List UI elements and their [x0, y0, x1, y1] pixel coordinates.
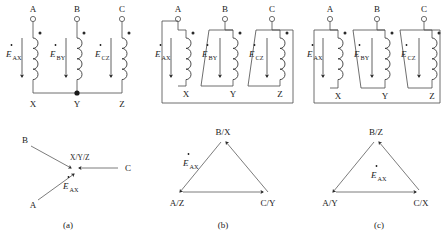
terminal-circle-a[interactable] — [30, 16, 35, 21]
terminal-circle-b2[interactable] — [222, 16, 227, 21]
polarity-dot-b3 — [391, 32, 394, 35]
svg-text:BY: BY — [209, 54, 218, 61]
winding-end-label-z2: Z — [277, 89, 283, 99]
winding-end-label-y3: Y — [382, 91, 389, 101]
emf-label-ax3: E AX — [306, 44, 323, 60]
terminal-circle-b[interactable] — [74, 16, 79, 21]
svg-text:E: E — [154, 49, 161, 59]
junction-dot-neutral — [74, 90, 79, 95]
emf-label-by: E BY — [49, 44, 66, 60]
polarity-dot-b — [83, 32, 86, 35]
winding-end-label-x1: X — [30, 99, 37, 109]
winding-end-label-y1: Y — [74, 99, 81, 109]
bottom-stub-a3 — [330, 80, 338, 88]
winding-coil-b2 — [233, 38, 238, 80]
polarity-dot-b2 — [239, 32, 242, 35]
winding-end-label-x2: X — [183, 89, 190, 99]
svg-text:AX: AX — [13, 54, 22, 61]
caption-a: (a) — [63, 220, 73, 230]
winding-end-label-z1: Z — [119, 99, 125, 109]
emf-label-ax2: E AX — [154, 44, 171, 60]
terminal-label-b3: B — [374, 4, 380, 14]
polarity-dot-c — [128, 32, 131, 35]
polarity-dot-a2 — [192, 32, 195, 35]
phasor-vertex-bz: B/Z — [369, 127, 383, 137]
phasor-emf-label-b: E AX — [182, 153, 199, 169]
svg-text:E: E — [62, 181, 69, 191]
polarity-dot-a3 — [344, 32, 347, 35]
svg-text:BY: BY — [57, 54, 66, 61]
terminal-circle-c2[interactable] — [269, 16, 274, 21]
bottom-stub-c3 — [424, 80, 432, 88]
top-connect-a2 — [178, 22, 186, 38]
phasor-vertex-az: A/Z — [170, 198, 185, 208]
winding-coil-b3 — [385, 38, 390, 80]
polarity-dot-c2 — [286, 32, 289, 35]
winding-coil-b — [77, 38, 82, 80]
terminal-label-b2: B — [222, 4, 228, 14]
emf-label-ax: E AX — [5, 44, 22, 60]
phasor-side-b-to-a-c — [333, 142, 374, 192]
svg-text:AX: AX — [162, 54, 171, 61]
terminal-circle-c[interactable] — [119, 16, 124, 21]
svg-text:AX: AX — [314, 54, 323, 61]
subfigure-a: A B C E AX E BY E CZ X Y Z B — [0, 0, 150, 234]
phasor-center-label: X/Y/Z — [70, 153, 90, 162]
phasor-vertex-cx: C/X — [413, 198, 429, 208]
winding-end-label-x3: X — [335, 91, 342, 101]
phasor-side-c-to-b-c — [379, 142, 419, 190]
terminal-label-c3: C — [421, 4, 427, 14]
phasor-vertex-c: C — [125, 163, 131, 173]
outer-return-rail-b — [162, 21, 293, 103]
winding-end-label-y2: Y — [230, 89, 237, 99]
svg-text:E: E — [400, 49, 407, 59]
phasor-emf-label-c: E AX — [370, 165, 387, 181]
phasor-vertex-cy: C/Y — [260, 198, 276, 208]
phasor-arm-b — [31, 146, 71, 168]
svg-text:AX: AX — [378, 175, 387, 182]
terminal-label-a1: A — [30, 4, 37, 14]
phasor-vertex-bx: B/X — [215, 127, 231, 137]
bottom-stub-a2 — [178, 80, 186, 86]
phasor-emf-label-a: E AX — [62, 176, 79, 192]
svg-text:BY: BY — [361, 54, 370, 61]
winding-end-label-z3: Z — [429, 91, 435, 101]
terminal-circle-b3[interactable] — [374, 16, 379, 21]
terminal-label-a3: A — [327, 4, 334, 14]
emf-label-by2: E BY — [201, 44, 218, 60]
svg-text:E: E — [370, 170, 377, 180]
caption-c: (c) — [374, 220, 384, 230]
phasor-vertex-b: B — [22, 135, 28, 145]
phasor-side-c-to-b — [226, 142, 268, 192]
emf-label-cz2: E CZ — [248, 44, 264, 60]
terminal-circle-c3[interactable] — [421, 16, 426, 21]
svg-text:CZ: CZ — [408, 54, 416, 61]
svg-text:E: E — [353, 49, 360, 59]
subfigure-c: A B C E AX E BY E CZ X Y Z — [297, 0, 444, 234]
svg-text:E: E — [94, 49, 101, 59]
phasor-vertex-a: A — [30, 200, 37, 210]
svg-text:E: E — [182, 158, 189, 168]
winding-coil-a3 — [338, 38, 343, 80]
winding-coil-c2 — [280, 38, 285, 80]
svg-text:E: E — [5, 49, 12, 59]
terminal-label-c1: C — [119, 4, 125, 14]
outer-return-rail-c — [314, 30, 440, 103]
bottom-stub-b2 — [225, 80, 233, 86]
terminal-label-a2: A — [175, 4, 182, 14]
svg-text:E: E — [201, 49, 208, 59]
terminal-circle-a3[interactable] — [327, 16, 332, 21]
emf-label-cz: E CZ — [94, 44, 110, 60]
svg-text:AX: AX — [190, 163, 199, 170]
svg-text:CZ: CZ — [256, 54, 264, 61]
subfigure-b: A B C E AX E BY E CZ X Y Z — [150, 0, 297, 234]
svg-text:CZ: CZ — [102, 54, 110, 61]
caption-b: (b) — [218, 220, 229, 230]
winding-coil-a2 — [186, 38, 191, 80]
winding-coil-a — [33, 38, 38, 80]
svg-text:E: E — [49, 49, 56, 59]
winding-coil-c — [122, 38, 127, 80]
terminal-label-b1: B — [74, 4, 80, 14]
winding-coil-c3 — [432, 38, 437, 80]
bottom-stub-b3 — [377, 80, 385, 88]
